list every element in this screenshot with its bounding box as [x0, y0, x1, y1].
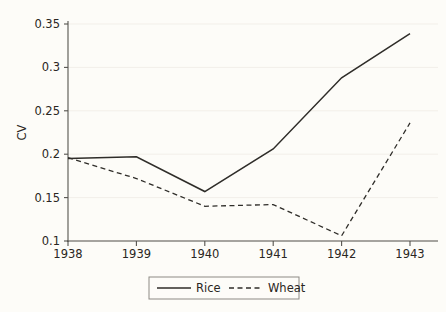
series-group: [68, 34, 410, 236]
legend-label-rice: Rice: [196, 281, 221, 295]
line-chart: 0.10.150.20.250.30.35 193819391940194119…: [0, 0, 446, 312]
series-line-rice: [68, 34, 410, 192]
x-tick-label-1940: 1940: [190, 247, 219, 261]
axes-group: [67, 21, 438, 242]
series-line-wheat: [68, 123, 410, 236]
x-tick-labels-group: 193819391940194119421943: [53, 247, 424, 261]
tick-marks-group: [64, 24, 410, 246]
y-tick-label-0.2: 0.2: [42, 147, 60, 161]
y-axis-title: CV: [15, 124, 29, 140]
y-tick-label-0.15: 0.15: [34, 191, 60, 205]
axis-titles-group: CV: [15, 124, 29, 140]
x-tick-label-1938: 1938: [53, 247, 82, 261]
y-tick-label-0.35: 0.35: [34, 17, 60, 31]
y-tick-label-0.1: 0.1: [42, 234, 60, 248]
y-tick-labels-group: 0.10.150.20.250.30.35: [34, 17, 60, 248]
chart-figure: 0.10.150.20.250.30.35 193819391940194119…: [0, 0, 446, 312]
x-tick-label-1943: 1943: [395, 247, 424, 261]
y-tick-label-0.25: 0.25: [34, 104, 60, 118]
x-tick-label-1942: 1942: [327, 247, 356, 261]
y-tick-label-0.3: 0.3: [42, 60, 60, 74]
gridlines-group: [68, 24, 438, 241]
x-tick-label-1939: 1939: [122, 247, 151, 261]
x-tick-label-1941: 1941: [259, 247, 288, 261]
legend-label-wheat: Wheat: [268, 281, 306, 295]
chart-legend: RiceWheat: [149, 277, 306, 299]
